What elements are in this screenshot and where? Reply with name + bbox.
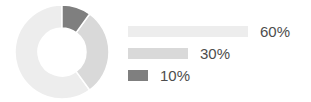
legend-swatch-bar — [128, 48, 188, 59]
donut-slice-group — [15, 5, 109, 99]
donut-chart-svg — [14, 4, 110, 100]
legend-item[interactable]: 30% — [128, 47, 230, 59]
donut-chart — [14, 4, 110, 100]
legend-swatch-bar — [128, 26, 248, 37]
legend-item[interactable]: 60% — [128, 25, 290, 37]
legend-swatch-bar — [128, 70, 148, 81]
legend-label: 30% — [200, 46, 230, 61]
legend-label: 60% — [260, 24, 290, 39]
donut-chart-figure: 60% 30% 10% — [0, 0, 311, 102]
legend-item[interactable]: 10% — [128, 69, 190, 81]
chart-legend: 60% 30% 10% — [128, 0, 311, 102]
legend-label: 10% — [160, 68, 190, 83]
